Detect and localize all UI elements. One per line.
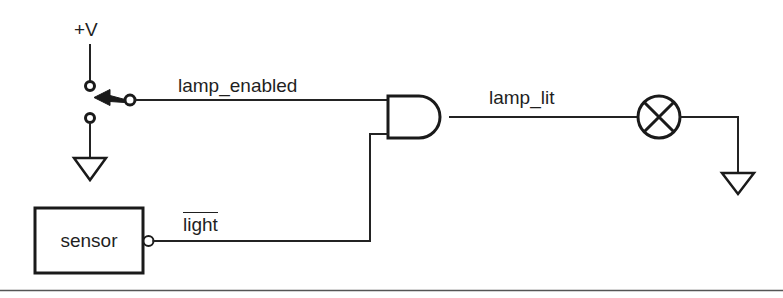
ground-lamp — [722, 173, 754, 194]
ground-triangle-icon — [74, 158, 106, 180]
lamp-return-wire — [680, 117, 738, 173]
ground-switch — [74, 158, 106, 180]
and-gate[interactable] — [388, 96, 470, 138]
switch-upper-terminal-dot — [86, 82, 95, 91]
switch-lower-terminal-dot — [86, 114, 95, 123]
ground-triangle-icon — [722, 173, 754, 194]
circuit-diagram: +V lamp_enabled lamp_lit light sensor — [0, 0, 783, 298]
switch-pivot-dot — [125, 95, 135, 105]
signal-label-lamp-enabled: lamp_enabled — [178, 76, 297, 95]
and-gate-body — [388, 96, 440, 138]
signal-label-light-inverted: light — [183, 212, 218, 234]
lamp[interactable] — [638, 96, 680, 138]
signal-label-lamp-lit: lamp_lit — [489, 88, 554, 107]
sensor-output-inversion-bubble — [144, 236, 154, 246]
supply-voltage-label: +V — [74, 20, 98, 39]
spdt-switch[interactable] — [86, 82, 136, 159]
signal-label-light-overbar-text: light — [183, 212, 218, 234]
sensor-block-label: sensor — [35, 208, 143, 273]
switch-blade-arrow[interactable] — [94, 90, 125, 106]
